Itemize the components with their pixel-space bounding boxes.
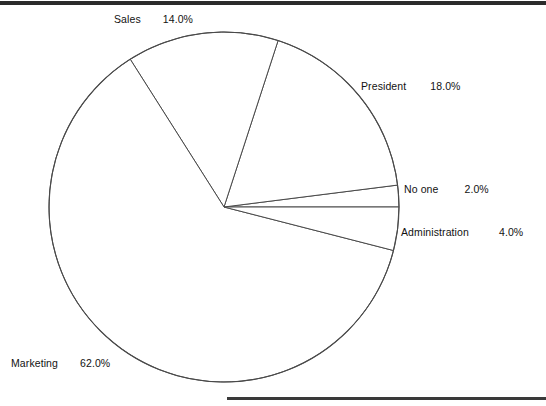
bottom-rule: [227, 397, 546, 400]
pie-label-sales: Sales14.0%: [114, 13, 193, 26]
pie-slice-group: [49, 32, 399, 382]
pie-label-administration: Administration4.0%: [401, 226, 523, 239]
pie-label-president: President18.0%: [361, 80, 461, 93]
pie-label-sales-value: 14.0%: [163, 13, 193, 26]
chart-page: Sales14.0% President18.0% No one2.0% Adm…: [0, 0, 546, 406]
pie-label-president-name: President: [361, 80, 406, 93]
pie-label-marketing-value: 62.0%: [80, 357, 110, 370]
pie-label-no-one-value: 2.0%: [464, 183, 488, 196]
pie-label-president-value: 18.0%: [430, 80, 460, 93]
pie-label-administration-value: 4.0%: [499, 226, 523, 239]
pie-chart: [0, 0, 546, 406]
pie-label-no-one: No one2.0%: [404, 183, 489, 196]
pie-label-marketing: Marketing62.0%: [11, 357, 110, 370]
pie-label-marketing-name: Marketing: [11, 357, 58, 370]
pie-label-no-one-name: No one: [404, 183, 438, 196]
pie-label-sales-name: Sales: [114, 13, 141, 26]
pie-label-administration-name: Administration: [401, 226, 469, 239]
